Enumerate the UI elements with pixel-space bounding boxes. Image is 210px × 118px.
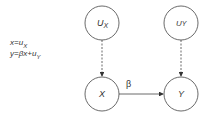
edge-beta-label: β: [126, 79, 131, 89]
node-ux: UX: [85, 6, 119, 40]
node-x: X: [85, 77, 119, 111]
node-uy: UY: [164, 6, 198, 40]
node-y-label: Y: [178, 89, 185, 99]
causal-diagram: UX UY X Y β: [0, 0, 210, 118]
node-x-label: X: [98, 89, 106, 99]
node-ux-sub: X: [103, 22, 109, 29]
node-y: Y: [164, 77, 198, 111]
svg-text:UY: UY: [176, 19, 188, 28]
